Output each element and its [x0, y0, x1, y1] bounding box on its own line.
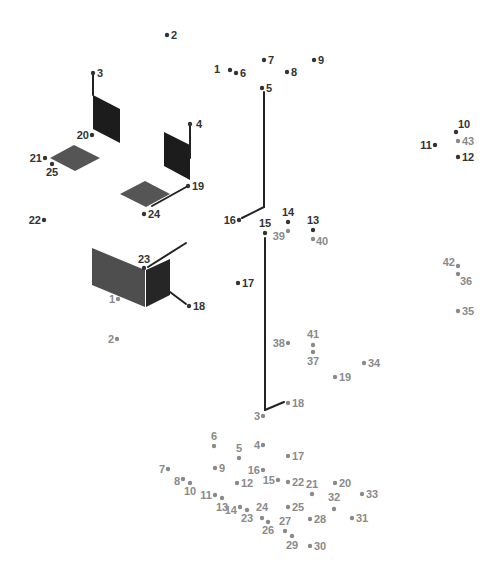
light-dot-3[interactable]: 3: [254, 410, 265, 422]
light-dot-32[interactable]: 32: [328, 491, 340, 511]
dot-marker[interactable]: [142, 212, 146, 216]
dot-marker[interactable]: [286, 229, 290, 233]
dark-dot-22[interactable]: 22: [29, 214, 46, 226]
light-dot-36[interactable]: 36: [456, 272, 472, 287]
dark-dot-5[interactable]: 5: [260, 82, 272, 94]
dot-marker[interactable]: [276, 478, 280, 482]
dark-dot-11[interactable]: 11: [420, 139, 437, 151]
dot-marker[interactable]: [262, 58, 266, 62]
light-dot-20[interactable]: 20: [333, 477, 351, 489]
dot-puzzle-board[interactable]: 1234567891011121314151617181920212223242…: [0, 0, 498, 580]
light-dot-15[interactable]: 15: [263, 474, 280, 486]
dark-dot-6[interactable]: 6: [234, 67, 246, 79]
dot-marker[interactable]: [456, 309, 460, 313]
dot-marker[interactable]: [116, 297, 120, 301]
light-dot-38[interactable]: 38: [273, 337, 290, 349]
dark-dot-14[interactable]: 14: [282, 206, 295, 224]
dark-dot-20[interactable]: 20: [77, 129, 94, 141]
light-dot-26[interactable]: 26: [262, 520, 274, 536]
dot-marker[interactable]: [228, 68, 232, 72]
light-dot-30[interactable]: 30: [308, 540, 326, 552]
dot-marker[interactable]: [456, 264, 460, 268]
dot-marker[interactable]: [166, 467, 170, 471]
light-dot-34[interactable]: 34: [362, 357, 381, 369]
dot-marker[interactable]: [237, 218, 241, 222]
dot-marker[interactable]: [213, 493, 217, 497]
dot-marker[interactable]: [332, 507, 336, 511]
light-dot-7[interactable]: 7: [159, 463, 170, 475]
dot-marker[interactable]: [260, 86, 264, 90]
light-dot-6[interactable]: 6: [211, 430, 217, 448]
dot-marker[interactable]: [236, 281, 240, 285]
dark-dot-7[interactable]: 7: [262, 54, 274, 66]
dark-dot-18[interactable]: 18: [187, 300, 205, 312]
dot-marker[interactable]: [286, 220, 290, 224]
dot-marker[interactable]: [42, 218, 46, 222]
dark-dot-1[interactable]: 1: [214, 63, 232, 75]
dark-dot-12[interactable]: 12: [456, 151, 474, 163]
light-dot-24[interactable]: 24: [256, 501, 269, 520]
light-dot-27[interactable]: 27: [279, 515, 291, 533]
dot-marker[interactable]: [433, 143, 437, 147]
light-dot-18[interactable]: 18: [286, 397, 304, 409]
light-dot-28[interactable]: 28: [308, 513, 326, 525]
dot-marker[interactable]: [283, 529, 287, 533]
dot-marker[interactable]: [311, 237, 315, 241]
light-dot-2[interactable]: 2: [108, 333, 119, 345]
dark-dot-25[interactable]: 25: [46, 162, 58, 178]
light-dot-39[interactable]: 39: [273, 229, 290, 242]
dot-marker[interactable]: [286, 401, 290, 405]
dot-marker[interactable]: [286, 505, 290, 509]
light-dot-17[interactable]: 17: [286, 450, 304, 462]
dot-marker[interactable]: [312, 58, 316, 62]
dot-marker[interactable]: [90, 133, 94, 137]
light-dot-29[interactable]: 29: [286, 534, 298, 551]
light-dot-19[interactable]: 19: [333, 371, 351, 383]
light-dot-31[interactable]: 31: [350, 512, 368, 524]
dark-dot-10[interactable]: 10: [454, 118, 470, 134]
dot-marker[interactable]: [350, 516, 354, 520]
light-dot-40[interactable]: 40: [311, 235, 328, 247]
dark-dot-24[interactable]: 24: [142, 208, 161, 220]
dot-marker[interactable]: [333, 481, 337, 485]
light-dot-33[interactable]: 33: [360, 488, 378, 500]
dot-marker[interactable]: [91, 71, 95, 75]
dot-marker[interactable]: [333, 375, 337, 379]
dark-dot-9[interactable]: 9: [312, 54, 324, 66]
dot-marker[interactable]: [456, 139, 460, 143]
light-dot-23[interactable]: 23: [241, 508, 253, 524]
dot-marker[interactable]: [213, 466, 217, 470]
dot-marker[interactable]: [263, 231, 267, 235]
dot-marker[interactable]: [238, 505, 242, 509]
dot-marker[interactable]: [286, 341, 290, 345]
light-dot-22[interactable]: 22: [286, 476, 304, 488]
dot-marker[interactable]: [237, 456, 241, 460]
light-dot-12[interactable]: 12: [235, 477, 253, 489]
dark-dot-15[interactable]: 15: [259, 217, 271, 235]
dot-marker[interactable]: [235, 481, 239, 485]
dot-marker[interactable]: [186, 184, 190, 188]
dot-marker[interactable]: [115, 337, 119, 341]
dark-dot-21[interactable]: 21: [30, 152, 47, 164]
dot-marker[interactable]: [234, 71, 238, 75]
dot-marker[interactable]: [290, 534, 294, 538]
dot-marker[interactable]: [311, 350, 315, 354]
dot-marker[interactable]: [261, 443, 265, 447]
light-dot-43[interactable]: 43: [456, 135, 474, 147]
dot-marker[interactable]: [286, 454, 290, 458]
dot-marker[interactable]: [308, 544, 312, 548]
light-dot-10[interactable]: 10: [184, 481, 196, 497]
light-dot-35[interactable]: 35: [456, 305, 474, 317]
dark-dot-17[interactable]: 17: [236, 277, 254, 289]
light-dot-11[interactable]: 11: [200, 489, 217, 501]
dot-marker[interactable]: [456, 155, 460, 159]
light-dot-42[interactable]: 42: [443, 256, 460, 268]
dark-dot-16[interactable]: 16: [224, 214, 241, 226]
dark-dot-13[interactable]: 13: [307, 214, 319, 232]
dot-marker[interactable]: [454, 130, 458, 134]
dark-dot-2[interactable]: 2: [165, 29, 177, 41]
light-dot-41[interactable]: 41: [307, 328, 319, 347]
dot-marker[interactable]: [311, 343, 315, 347]
dot-marker[interactable]: [220, 496, 224, 500]
dot-marker[interactable]: [285, 70, 289, 74]
